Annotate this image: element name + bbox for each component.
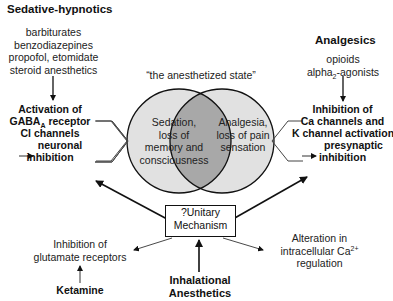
left-chevron-arrow	[95, 121, 128, 162]
drug-benzodiazepines: benzodiazepines	[2, 39, 105, 52]
sedative-drug-list: barbiturates benzodiazepines propofol, e…	[2, 26, 105, 76]
analgesics-heading: Analgesics	[315, 34, 376, 46]
calcium-regulation-text: Alteration in intracellular Ca2+ regulat…	[267, 232, 372, 270]
venn-left-label: Sedation, loss of memory and consciousne…	[134, 116, 214, 166]
analgesic-drug-list: opioids alpha2-agonists	[300, 53, 386, 78]
gaba-mechanism-text: Activation of GABAA receptor Cl channels…	[4, 103, 96, 163]
inhalational-anesthetics-label: Inhalational Anesthetics	[165, 274, 235, 299]
unitary-to-glutamate-arrow	[134, 238, 172, 250]
drug-barbiturates: barbiturates	[2, 26, 105, 39]
ketamine-label: Ketamine	[50, 284, 110, 297]
drug-propofol-etomidate: propofol, etomidate	[2, 51, 105, 64]
drug-steroid-anesthetics: steroid anesthetics	[2, 64, 105, 77]
drug-alpha2-agonists: alpha2-agonists	[300, 66, 386, 79]
venn-right-label: Analgesia, loss of pain sensation	[213, 116, 273, 154]
drug-opioids: opioids	[300, 53, 386, 66]
ca-channel-mechanism-text: Inhibition of Ca channels and K channel …	[292, 103, 393, 163]
sedative-hypnotics-heading: Sedative-hypnotics	[7, 3, 112, 15]
unitary-to-calcium-arrow	[223, 238, 263, 250]
glutamate-text: Inhibition of glutamate receptors	[30, 238, 130, 263]
venn-title: “the anesthetized state”	[130, 69, 272, 82]
unitary-mechanism-box: ?Unitary Mechanism	[165, 205, 236, 237]
